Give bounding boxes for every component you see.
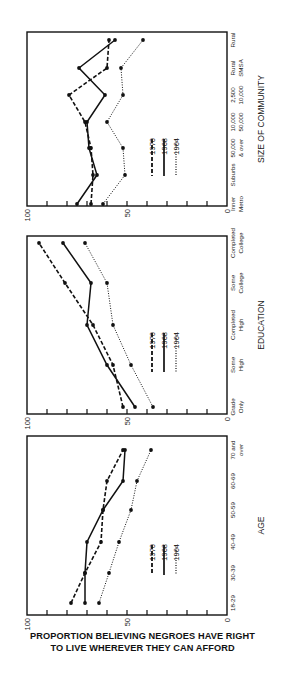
category-label: High	[237, 358, 244, 371]
data-point	[111, 363, 115, 367]
data-point	[135, 479, 139, 483]
figure-title-line-2: TO LIVE WHEREVER THEY CAN AFFORD	[0, 643, 285, 653]
data-point	[107, 38, 111, 42]
axis-title: AGE	[256, 516, 266, 534]
value-tick-label: 100	[23, 618, 32, 631]
category-label: Rural	[229, 33, 236, 48]
series-line-1964	[103, 40, 143, 204]
category-label: 30-39	[229, 565, 236, 581]
data-point	[105, 479, 109, 483]
data-point	[77, 66, 81, 70]
category-label: High	[237, 318, 244, 331]
value-tick-label: 50	[123, 618, 132, 626]
axis-title: EDUCATION	[256, 300, 266, 349]
category-label: 50-59	[229, 502, 236, 518]
category-label: 60-69	[229, 473, 236, 489]
figure: 050100InnerMetroSuburbs50,000& over10,00…	[0, 0, 285, 680]
panel-age: 05010018-2930-3940-4950-5960-6970 andove…	[23, 436, 266, 631]
plot-frame	[27, 32, 227, 206]
category-label: Completed	[229, 309, 236, 339]
data-point	[151, 405, 155, 409]
plot-frame	[27, 436, 227, 615]
data-point	[141, 38, 145, 42]
data-point	[113, 38, 117, 42]
value-tick-label: 50	[123, 209, 132, 217]
category-label: Inner	[229, 197, 236, 211]
data-point	[117, 540, 121, 544]
data-point	[105, 281, 109, 285]
data-point	[121, 93, 125, 97]
category-label: 50,000	[229, 138, 236, 157]
category-label: Only	[237, 400, 244, 414]
value-tick-label: 0	[223, 417, 232, 421]
series-line-1970	[71, 450, 123, 603]
category-label: 50,000	[237, 112, 244, 131]
data-point	[67, 93, 71, 97]
data-point	[85, 120, 89, 124]
category-label: Some	[229, 356, 236, 373]
data-point	[87, 146, 91, 150]
category-label: Grade	[229, 398, 236, 416]
plot-frame	[27, 236, 227, 414]
category-label: College	[237, 232, 244, 254]
figure-title-line-1: PROPORTION BELIEVING NEGROES HAVE RIGHT	[0, 631, 285, 641]
data-point	[89, 281, 93, 285]
category-label: Metro	[237, 196, 244, 212]
category-label: 2,500	[229, 87, 236, 103]
data-point	[83, 571, 87, 575]
category-label: over	[237, 444, 244, 456]
series-line-1964	[99, 450, 151, 603]
value-tick-label: 100	[23, 417, 32, 430]
data-point	[37, 241, 41, 245]
series-line-1968	[85, 450, 125, 603]
data-point	[83, 241, 87, 245]
data-point	[133, 405, 137, 409]
data-point	[121, 405, 125, 409]
data-point	[75, 202, 79, 206]
category-label: SMSA	[237, 58, 244, 76]
data-point	[123, 448, 127, 452]
category-label: 40-49	[229, 534, 236, 550]
value-tick-label: 100	[23, 209, 32, 222]
series-line-1968	[77, 40, 115, 204]
value-tick-label: 0	[223, 618, 232, 622]
data-point	[69, 601, 73, 605]
data-point	[101, 202, 105, 206]
data-point	[83, 601, 87, 605]
data-point	[119, 66, 123, 70]
data-point	[61, 241, 65, 245]
data-point	[63, 281, 67, 285]
data-point	[123, 173, 127, 177]
category-label: 10,000	[237, 85, 244, 104]
value-tick-label: 50	[123, 417, 132, 425]
series-line-1968	[63, 243, 135, 407]
category-label: & over	[237, 139, 244, 157]
data-point	[149, 448, 153, 452]
category-label: 70 and	[229, 440, 236, 459]
category-label: Completed	[229, 227, 236, 257]
data-point	[105, 363, 109, 367]
category-label: Some	[229, 274, 236, 291]
chart-canvas: 050100InnerMetroSuburbs50,000& over10,00…	[0, 0, 285, 680]
data-point	[91, 173, 95, 177]
axis-title: SIZE OF COMMUNITY	[256, 75, 266, 163]
data-point	[85, 323, 89, 327]
data-point	[85, 540, 89, 544]
data-point	[105, 120, 109, 124]
data-point	[103, 93, 107, 97]
data-point	[121, 146, 125, 150]
data-point	[121, 479, 125, 483]
panel-community: 050100InnerMetroSuburbs50,000& over10,00…	[23, 32, 266, 222]
data-point	[95, 173, 99, 177]
data-point	[99, 540, 103, 544]
data-point	[111, 323, 115, 327]
data-point	[105, 66, 109, 70]
data-point	[107, 571, 111, 575]
data-point	[101, 508, 105, 512]
data-point	[129, 363, 133, 367]
data-point	[97, 601, 101, 605]
category-label: 10,000	[229, 112, 236, 131]
data-point	[91, 323, 95, 327]
category-label: Suburbs	[229, 163, 236, 186]
category-label: College	[237, 272, 244, 294]
